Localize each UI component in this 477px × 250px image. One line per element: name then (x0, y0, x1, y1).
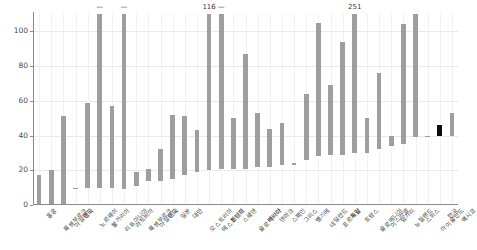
y-tick-mark (30, 66, 33, 67)
bar-value-annotation: — (218, 4, 225, 11)
x-tick-label: 홍콩 (46, 207, 59, 220)
y-axis-line (33, 12, 34, 205)
bar[interactable] (182, 116, 187, 175)
gridline-vertical (282, 14, 283, 205)
bar[interactable] (304, 94, 309, 160)
gridline-vertical (76, 14, 77, 205)
bar-value-annotation: — (121, 4, 128, 11)
y-tick-label: 60 (18, 97, 28, 105)
y-tick-mark (30, 170, 33, 171)
plot-area: ——116—251 (33, 14, 458, 205)
bar[interactable] (352, 14, 357, 153)
bar[interactable] (134, 172, 139, 186)
bar[interactable] (413, 14, 418, 137)
bar[interactable] (158, 149, 163, 180)
bar[interactable] (207, 14, 212, 170)
bar[interactable] (61, 116, 66, 205)
bar[interactable] (85, 103, 90, 188)
y-tick-label: 80 (18, 62, 28, 70)
bar[interactable] (146, 169, 151, 181)
bar[interactable] (280, 123, 285, 165)
bar[interactable] (37, 175, 42, 205)
x-tick-label: 프랑스 (363, 207, 380, 224)
gridline-vertical (452, 14, 453, 205)
bar-value-annotation: 116 (202, 4, 215, 11)
bar[interactable] (73, 188, 78, 190)
bar[interactable] (243, 54, 248, 169)
bar[interactable] (389, 136, 394, 146)
gridline-vertical (391, 14, 392, 205)
bar[interactable] (365, 118, 370, 153)
bar[interactable] (377, 73, 382, 149)
bar[interactable] (97, 14, 102, 188)
gridline-vertical (270, 14, 271, 205)
bar[interactable] (316, 23, 321, 157)
bar[interactable] (219, 14, 224, 169)
y-tick-mark (30, 101, 33, 102)
bar-highlighted[interactable] (437, 125, 442, 135)
bar[interactable] (340, 42, 345, 155)
bar[interactable] (450, 113, 455, 136)
gridline-vertical (294, 14, 295, 205)
bar[interactable] (267, 129, 272, 167)
bar[interactable] (328, 85, 333, 154)
bar[interactable] (401, 24, 406, 144)
x-tick-label: 대만 (191, 207, 204, 220)
y-tick-label: 20 (18, 167, 28, 175)
y-tick-label: 0 (23, 201, 28, 209)
gridline-vertical (197, 14, 198, 205)
bar[interactable] (170, 115, 175, 179)
y-tick-label: 40 (18, 132, 28, 140)
bar[interactable] (425, 136, 430, 138)
y-tick-mark (30, 136, 33, 137)
gridline-vertical (258, 14, 259, 205)
y-tick-mark (30, 31, 33, 32)
gridline-vertical (233, 14, 234, 205)
y-tick-label: 100 (14, 28, 28, 36)
x-tick-label: 일본 (179, 207, 192, 220)
gridline-vertical (367, 14, 368, 205)
x-axis-line (33, 204, 458, 205)
bar[interactable] (195, 130, 200, 172)
bar[interactable] (292, 163, 297, 165)
bar[interactable] (231, 118, 236, 168)
gridline-vertical (440, 14, 441, 205)
bar[interactable] (110, 106, 115, 188)
bar[interactable] (49, 170, 54, 205)
y-tick-mark (30, 205, 33, 206)
bar[interactable] (122, 14, 127, 189)
bar-value-annotation: — (96, 4, 103, 11)
gridline-vertical (185, 14, 186, 205)
x-tick-label: 독일 (349, 207, 362, 220)
gridline-vertical (428, 14, 429, 205)
bar-value-annotation: 251 (348, 4, 361, 11)
bar[interactable] (255, 113, 260, 167)
